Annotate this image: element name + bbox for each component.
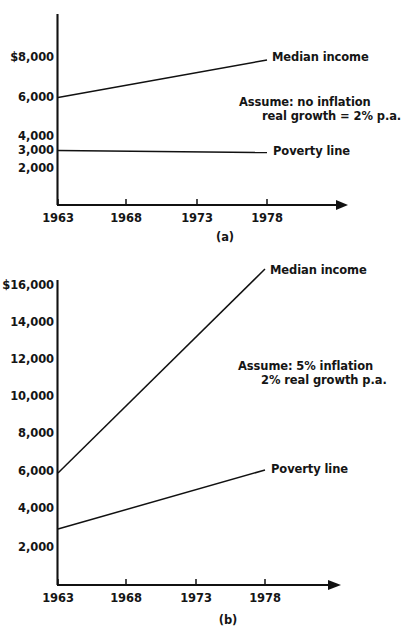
panel-b-median-income-line xyxy=(58,269,265,473)
panel-a-x-axis-arrow-icon xyxy=(336,200,348,210)
panel-a-ytick-label-8000: $8,000 xyxy=(2,52,54,64)
panel-b-ytick-label-12000: 12,000 xyxy=(0,354,54,366)
panel-a-annotation-line-1: Assume: no inflation xyxy=(239,95,371,109)
panel-b-ytick-label-2000: 2,000 xyxy=(0,542,54,554)
panel-a-median-income-label: Median income xyxy=(272,52,369,64)
panel-b-assumption-annotation: Assume: 5% inflation 2% real growth p.a. xyxy=(238,359,387,387)
panel-b-ytick-label-6000: 6,000 xyxy=(0,466,54,478)
panel-a-xtick-label-1978: 1978 xyxy=(251,213,283,225)
panel-b-ytick-label-8000: 8,000 xyxy=(0,428,54,440)
panel-b-poverty-line-label: Poverty line xyxy=(271,464,348,476)
panel-a-ytick-label-6000: 6,000 xyxy=(2,92,54,104)
panel-b-xtick-label-1978: 1978 xyxy=(249,593,281,605)
panel-a-xtick-label-1963: 1963 xyxy=(42,213,74,225)
panel-a-xtick-label-1968: 1968 xyxy=(110,213,142,225)
panel-b-x-axis-arrow-icon xyxy=(328,580,341,590)
panel-b-annotation-line-2: 2% real growth p.a. xyxy=(238,373,387,387)
two-panel-line-chart-figure: $8,000 6,000 4,000 3,000 2,000 1963 1968… xyxy=(0,0,401,633)
panel-b-xtick-label-1973: 1973 xyxy=(180,593,212,605)
panel-a-caption: (a) xyxy=(216,232,234,244)
panel-a-poverty-line xyxy=(58,151,267,153)
panel-a-ytick-label-4000: 4,000 xyxy=(2,131,54,143)
panel-a-annotation-line-2: real growth = 2% p.a. xyxy=(239,109,401,123)
panel-b-poverty-line xyxy=(58,470,265,529)
panel-b-caption: (b) xyxy=(219,615,237,627)
panel-b-ytick-label-16000: $16,000 xyxy=(0,280,54,292)
panel-a-poverty-line-label: Poverty line xyxy=(273,146,350,158)
panel-a-median-income-line xyxy=(58,60,267,98)
panel-b-ytick-label-10000: 10,000 xyxy=(0,391,54,403)
panel-a-ytick-label-3000: 3,000 xyxy=(2,145,54,157)
panel-a-assumption-annotation: Assume: no inflation real growth = 2% p.… xyxy=(239,95,401,123)
panel-b-ytick-label-4000: 4,000 xyxy=(0,503,54,515)
panel-b-median-income-label: Median income xyxy=(270,265,367,277)
panel-b-xtick-label-1968: 1968 xyxy=(110,593,142,605)
panel-b-ytick-label-14000: 14,000 xyxy=(0,317,54,329)
panel-a-xtick-label-1973: 1973 xyxy=(181,213,213,225)
panel-b-xtick-label-1963: 1963 xyxy=(42,593,74,605)
panel-a-ytick-label-2000: 2,000 xyxy=(2,163,54,175)
panel-b-annotation-line-1: Assume: 5% inflation xyxy=(238,359,373,373)
